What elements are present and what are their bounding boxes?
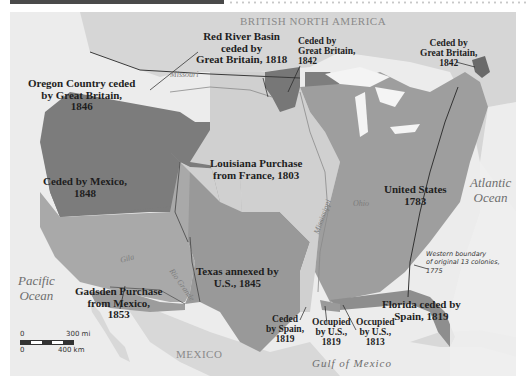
label-red-river: Red River Basin ceded by Great Britain, … <box>196 31 287 66</box>
label-ceded-1842-east: Ceded by Great Britain, 1842 <box>420 39 477 69</box>
label-occupied-1813: Occupied by U.S., 1813 <box>356 318 395 348</box>
territorial-expansion-map: BRITISH NORTH AMERICA Red River Basin ce… <box>10 12 516 376</box>
label-occupied-1819: Occupied by U.S., 1819 <box>312 318 351 348</box>
scale-km-start: 0 <box>20 346 24 354</box>
scale-mi-end: 300 mi <box>66 330 90 338</box>
label-pacific-ocean: Pacific Ocean <box>18 274 55 304</box>
label-ceded-spain-1819: Ceded by Spain, 1819 <box>266 315 304 345</box>
label-atlantic-ocean: Atlantic Ocean <box>470 176 511 206</box>
scale-km-end: 400 km <box>58 346 84 354</box>
scale-bar-graphic <box>20 340 74 345</box>
label-ohio-river: Ohio <box>353 199 369 208</box>
label-louisiana: Louisiana Purchase from France, 1803 <box>210 158 302 181</box>
label-mexico-cession: Ceded by Mexico, 1848 <box>43 176 127 199</box>
header-bar <box>0 0 528 10</box>
label-oregon: Oregon Country ceded by Great Britain, 1… <box>28 78 135 113</box>
label-gulf-of-mexico: Gulf of Mexico <box>312 357 392 370</box>
label-texas: Texas annexed by U.S., 1845 <box>196 266 279 289</box>
label-ceded-1842-west: Ceded by Great Britain, 1842 <box>298 37 355 67</box>
dotted-rule <box>228 1 528 4</box>
annotation-western-boundary: Western boundary of original 13 colonies… <box>426 250 500 275</box>
label-mexico: MEXICO <box>176 348 222 360</box>
label-missouri-river: Missouri <box>170 70 198 79</box>
label-gadsden: Gadsden Purchase from Mexico, 1853 <box>75 286 163 321</box>
title-bar <box>10 0 224 4</box>
label-united-states: United States 1783 <box>384 184 447 207</box>
scale-bar: 0 300 mi 0 400 km <box>12 330 92 360</box>
label-british-north-america: BRITISH NORTH AMERICA <box>240 15 386 27</box>
label-florida: Florida ceded by Spain, 1819 <box>382 299 461 322</box>
scale-mi-start: 0 <box>20 330 24 338</box>
